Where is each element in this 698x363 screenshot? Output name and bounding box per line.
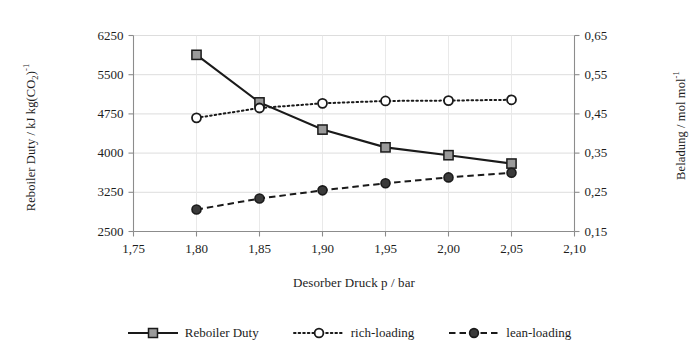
data-point-marker [192,113,201,122]
data-point-marker [507,159,516,168]
legend-label: rich-loading [351,325,415,341]
data-point-marker [318,125,327,134]
data-point-marker [192,50,201,59]
data-point-marker [255,194,264,203]
data-point-marker [507,168,516,177]
data-point-marker [444,151,453,160]
series-rich-loading [192,95,516,122]
data-point-marker [507,95,516,104]
legend-marker-circle-filled [448,326,500,340]
legend-marker-square [127,326,179,340]
chart-legend: Reboiler Dutyrich-loadinglean-loading [0,318,698,348]
legend-label: Reboiler Duty [185,325,259,341]
data-point-marker [318,99,327,108]
series-lean-loading [192,168,516,214]
plot-area [0,0,698,363]
data-point-marker [192,205,201,214]
series-line [197,55,512,164]
data-point-marker [381,143,390,152]
legend-item-rich-loading[interactable]: rich-loading [293,325,415,341]
data-point-marker [318,186,327,195]
data-point-marker [444,173,453,182]
legend-item-lean-loading[interactable]: lean-loading [448,325,571,341]
data-point-marker [444,96,453,105]
legend-marker-circle-open [293,326,345,340]
data-point-marker [381,96,390,105]
series-line [197,100,512,118]
series-line [197,173,512,210]
legend-label: lean-loading [506,325,571,341]
legend-item-reboiler-duty[interactable]: Reboiler Duty [127,325,259,341]
chart-figure: Reboiler Duty / kJ kg(CO2)-1 Beladung / … [0,0,698,363]
data-point-marker [255,104,264,113]
data-point-marker [381,179,390,188]
series-reboiler-duty [192,50,516,168]
